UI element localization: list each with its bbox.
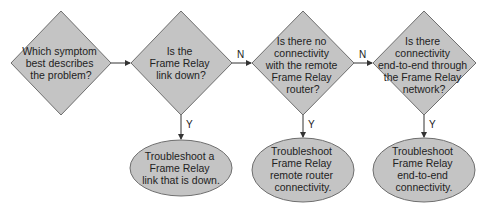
edge-label-y: Y: [308, 119, 315, 130]
flowchart-canvas: Which symptom best describes the problem…: [0, 0, 486, 204]
edge-label-y: Y: [186, 119, 193, 130]
edge-d4-a3: Y: [424, 115, 436, 137]
edge-d3-a2: Y: [303, 115, 315, 137]
decision-end-to-end-connectivity: Is there connectivity end-to-end through…: [373, 11, 476, 115]
action-label: Troubleshoot Frame Relay end-to-end conn…: [392, 145, 456, 193]
action-link-down: Troubleshoot a Frame Relay link that is …: [130, 140, 232, 196]
edge-d2-a1: Y: [181, 115, 193, 139]
decision-label: Which symptom best describes the problem…: [22, 45, 100, 81]
decision-which-symptom: Which symptom best describes the problem…: [11, 11, 111, 115]
action-label: Troubleshoot a Frame Relay link that is …: [142, 150, 220, 186]
action-end-to-end: Troubleshoot Frame Relay end-to-end conn…: [373, 138, 475, 202]
edge-d2-d3: N: [232, 49, 251, 63]
decision-link-down: Is the Frame Relay link down?: [131, 11, 232, 115]
edge-label-n: N: [237, 49, 244, 60]
decision-no-remote-connectivity: Is there no connectivity with the remote…: [252, 11, 354, 115]
action-remote-router: Troubleshoot Frame Relay remote router c…: [252, 138, 354, 202]
edge-label-y: Y: [429, 119, 436, 130]
edge-label-n: N: [359, 49, 366, 60]
edge-d3-d4: N: [354, 49, 372, 63]
action-label: Troubleshoot Frame Relay remote router c…: [270, 145, 336, 193]
